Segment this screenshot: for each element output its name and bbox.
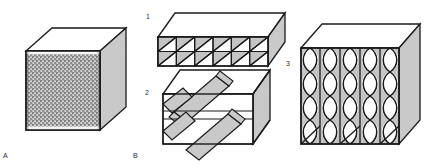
panel-b1-box <box>158 13 285 66</box>
panel-b2-number: 2 <box>145 89 149 96</box>
panel-b3-number: 3 <box>286 60 290 67</box>
composite-structure-diagram <box>0 0 431 168</box>
panel-a-cube <box>26 28 126 130</box>
box-b1-top-face <box>158 13 285 37</box>
panel-b-label: B <box>133 152 138 159</box>
figure-canvas: A B 1 2 3 <box>0 0 431 168</box>
panel-b3-cube <box>301 24 420 144</box>
panel-b1-number: 1 <box>146 13 150 20</box>
panel-b2-box <box>163 70 270 160</box>
cube-a-front-face <box>26 51 100 130</box>
panel-a-label: A <box>3 152 8 159</box>
